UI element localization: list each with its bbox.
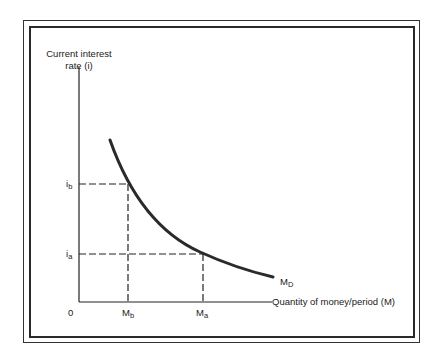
tick-label-ia: ia [66, 249, 72, 261]
tick-label-mb: Mb [122, 308, 134, 320]
y-axis-label: Current interest rate (i) [40, 48, 118, 72]
tick-label-ib: ib [66, 179, 72, 191]
tick-label-ma: Ma [196, 308, 208, 320]
money-demand-curve [110, 140, 273, 277]
curve-label-md: MD [280, 277, 293, 289]
origin-label: 0 [68, 308, 73, 318]
x-axis-label: Quantity of money/period (M) [272, 297, 395, 307]
y-axis-label-line2: rate (i) [40, 60, 118, 72]
y-axis-label-line1: Current interest [40, 48, 118, 60]
